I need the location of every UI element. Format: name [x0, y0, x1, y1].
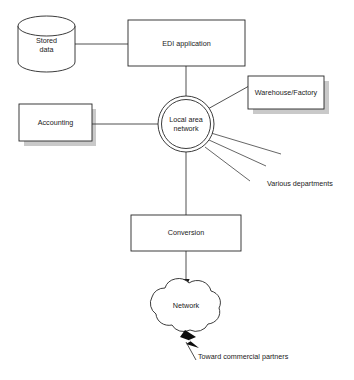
ray-department-1 — [211, 133, 281, 154]
various-departments-annotation: Various departments — [267, 179, 333, 188]
cylinder-top — [18, 16, 75, 36]
lan-outer-circle — [158, 96, 214, 152]
conversion-box — [131, 215, 241, 251]
warehouse-factory-box — [248, 76, 324, 109]
edi-network-diagram: Stored data EDI application Warehouse/Fa… — [0, 0, 354, 380]
local-area-network-circle — [158, 96, 214, 152]
lightning-bolt-icon — [180, 330, 199, 348]
network-cloud — [150, 279, 220, 332]
accounting-box — [19, 104, 92, 141]
edi-application-box — [128, 20, 245, 66]
ray-department-3 — [205, 147, 250, 181]
cloud-outline — [150, 279, 220, 332]
diagram-canvas — [0, 0, 354, 380]
toward-commercial-partners-annotation: Toward commercial partners — [198, 352, 288, 361]
connector-lan-to-warehouse — [206, 86, 249, 110]
stored-data-cylinder — [18, 16, 75, 72]
ray-department-2 — [209, 140, 266, 166]
